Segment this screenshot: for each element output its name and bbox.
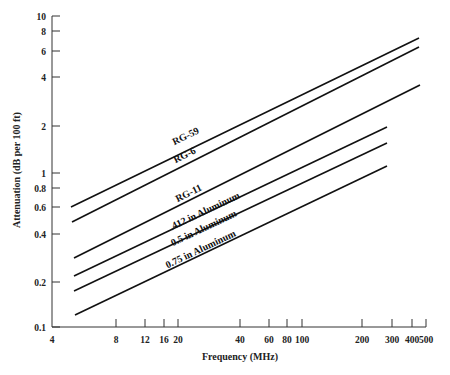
- series-rg-59: RG-59: [71, 38, 419, 207]
- x-tick-label: 40: [235, 335, 245, 345]
- x-tick-label: 300: [385, 335, 400, 345]
- attenuation-chart: 10864210.80.60.40.20.1 Attenuation (dB p…: [0, 0, 450, 375]
- x-axis-title: Frequency (MHz): [202, 351, 278, 363]
- x-tick-label: 400: [405, 335, 420, 345]
- series-line: [71, 38, 419, 207]
- x-tick-label: 500: [419, 335, 434, 345]
- series-0-75-in-aluminum: 0.75 in Aluminum: [75, 166, 387, 315]
- x-tick-label: 80: [282, 335, 292, 345]
- x-tick-label: 200: [355, 335, 370, 345]
- y-axis-title: Attenuation (dB per 100 ft): [11, 112, 23, 228]
- x-tick-label: 12: [140, 335, 150, 345]
- y-tick-label: 1: [41, 169, 46, 179]
- series-lines: RG-59RG-6RG-11.412 in Aluminum0.5 in Alu…: [71, 38, 420, 315]
- y-tick-label: 0.2: [34, 278, 46, 288]
- x-tick-label: 100: [295, 335, 310, 345]
- y-tick-label: 0.4: [34, 230, 46, 240]
- y-tick-label: 0.8: [34, 184, 46, 194]
- y-tick-label: 4: [41, 73, 46, 83]
- series-rg-6: RG-6: [72, 47, 419, 222]
- x-tick-label: 8: [114, 335, 119, 345]
- y-axis: 10864210.80.60.40.20.1 Attenuation (dB p…: [11, 12, 60, 333]
- series-label: RG-59: [170, 125, 200, 147]
- x-axis-ticks: 48121620406080100200300400500: [50, 319, 434, 345]
- y-tick-label: 8: [41, 27, 46, 37]
- y-tick-label: 6: [41, 47, 46, 57]
- x-tick-label: 4: [50, 335, 55, 345]
- series-412-in-aluminum: .412 in Aluminum: [74, 127, 387, 276]
- y-tick-label: 10: [37, 12, 47, 22]
- x-axis: 48121620406080100200300400500 Frequency …: [50, 319, 434, 363]
- series-label: RG-6: [172, 145, 198, 165]
- x-tick-label: 60: [264, 335, 274, 345]
- y-tick-label: 0.6: [34, 203, 46, 213]
- y-tick-label: 2: [41, 122, 46, 132]
- series-0-5-in-aluminum: 0.5 in Aluminum: [74, 143, 387, 291]
- series-line: [72, 47, 419, 222]
- series-line: [75, 166, 387, 315]
- x-tick-label: 16: [159, 335, 169, 345]
- y-tick-label: 0.1: [34, 323, 46, 333]
- y-axis-ticks: 10864210.80.60.40.20.1: [34, 12, 60, 333]
- x-tick-label: 20: [173, 335, 183, 345]
